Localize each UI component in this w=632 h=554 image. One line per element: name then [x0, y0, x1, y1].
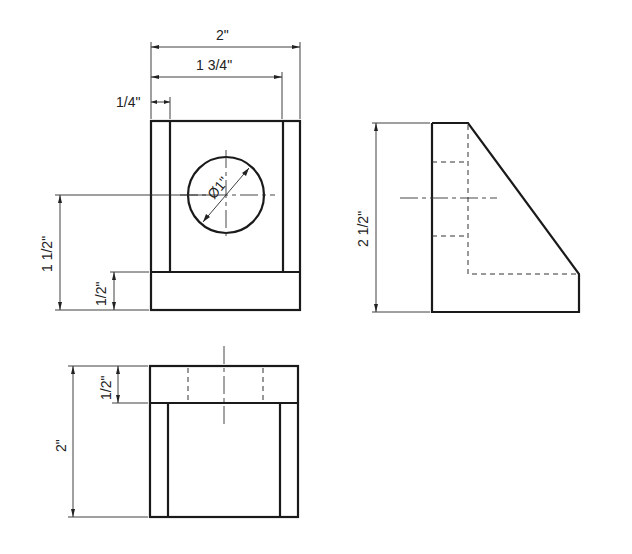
dim-base-height-label: 1/2": [93, 282, 109, 306]
dim-slot-width-label: 1/4": [116, 94, 140, 110]
side-dimensions: 2 1/2": [355, 123, 430, 312]
dim-top-base-label: 1/2": [98, 376, 114, 400]
front-outline: [151, 121, 300, 310]
dim-side-height-label: 2 1/2": [355, 211, 371, 247]
dim-inner-width-label: 1 3/4": [196, 57, 232, 73]
top-view: [150, 346, 298, 517]
dim-hole-height-label: 1 1/2": [39, 236, 55, 272]
top-dimensions: 2" 1/2": [53, 366, 148, 517]
dim-overall-width-label: 2": [216, 27, 229, 43]
hole-diameter-label: Ø1": [204, 174, 231, 202]
side-view: [400, 123, 579, 312]
side-outline: [432, 123, 579, 312]
technical-drawing: Ø1" 2" 1 3/4" 1/4" 1 1/2" 1/2": [0, 0, 632, 554]
front-view: Ø1": [151, 121, 300, 310]
dim-top-depth-label: 2": [53, 439, 69, 452]
